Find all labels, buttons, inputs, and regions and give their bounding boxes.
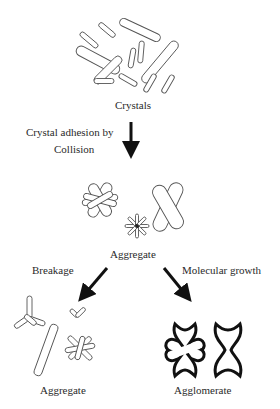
collision-label-line2: Collision: [54, 143, 94, 155]
agglomerate-illustration: [164, 324, 241, 376]
diagram-canvas: [0, 0, 280, 409]
agglomerate-label: Agglomerate: [174, 384, 231, 396]
crystals-label: Crystals: [115, 99, 151, 111]
aggregate-broken-illustration: [13, 296, 95, 377]
collision-label-line1: Crystal adhesion by: [26, 126, 113, 138]
crystals-illustration: [74, 17, 180, 94]
breakage-arrow: [84, 268, 107, 295]
aggregate-middle-label: Aggregate: [110, 248, 156, 260]
aggregate-middle-illustration: [82, 180, 186, 238]
breakage-label: Breakage: [32, 264, 74, 276]
aggregate-broken-label: Aggregate: [40, 384, 86, 396]
growth-label: Molecular growth: [182, 264, 261, 276]
